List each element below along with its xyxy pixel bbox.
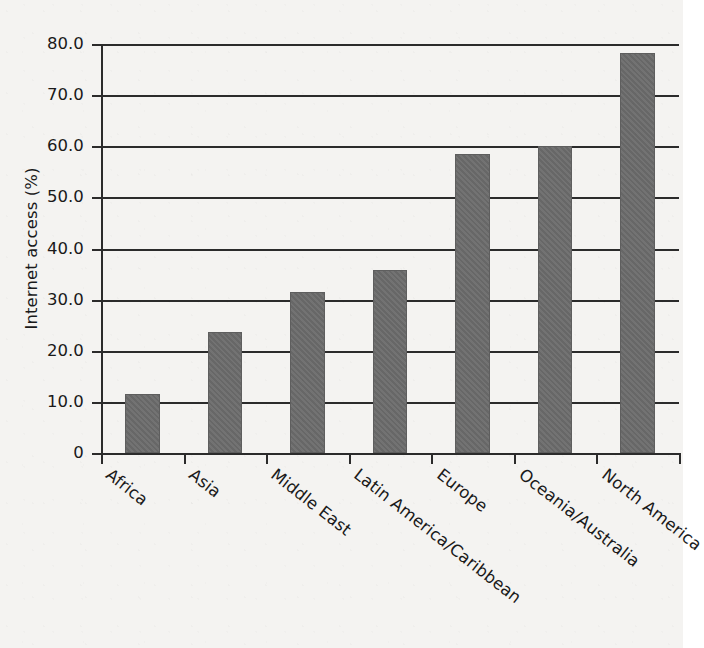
x-axis-label: Africa <box>103 465 152 509</box>
x-axis-label: Latin America/Caribbean <box>350 465 525 607</box>
y-tick-mark <box>92 44 101 46</box>
y-tick-mark <box>92 453 101 455</box>
x-tick-mark <box>514 453 516 464</box>
y-tick-mark <box>92 197 101 199</box>
x-tick-mark <box>266 453 268 464</box>
x-axis-labels: AfricaAsiaMiddle EastLatin America/Carib… <box>101 465 679 635</box>
x-axis-label: Europe <box>433 465 491 516</box>
y-tick-mark <box>92 402 101 404</box>
x-tick-mark <box>431 453 433 464</box>
bar <box>538 146 573 453</box>
y-tick-label: 80.0 <box>47 34 84 53</box>
bar <box>373 270 408 453</box>
y-tick-mark <box>92 351 101 353</box>
bar <box>125 394 160 453</box>
gridline <box>101 44 679 46</box>
gridline <box>101 453 679 455</box>
gridline <box>101 146 679 148</box>
x-axis-label: Middle East <box>268 465 356 539</box>
y-tick-mark <box>92 146 101 148</box>
y-tick-label: 50.0 <box>47 187 84 206</box>
plot-area: 010.020.030.040.050.060.070.080.0 <box>101 44 679 453</box>
y-tick-label: 0 <box>73 443 84 462</box>
x-tick-mark <box>184 453 186 464</box>
bar <box>290 292 325 453</box>
gridline <box>101 197 679 199</box>
x-axis-label: Asia <box>185 465 224 502</box>
y-tick-label: 60.0 <box>47 136 84 155</box>
y-tick-mark <box>92 95 101 97</box>
x-tick-mark <box>101 453 103 464</box>
bar <box>455 154 490 453</box>
gridline <box>101 95 679 97</box>
y-tick-label: 10.0 <box>47 392 84 411</box>
y-tick-mark <box>92 300 101 302</box>
y-axis-title: Internet access (%) <box>14 44 48 453</box>
y-tick-mark <box>92 249 101 251</box>
x-tick-mark <box>349 453 351 464</box>
y-tick-label: 70.0 <box>47 85 84 104</box>
y-tick-label: 20.0 <box>47 341 84 360</box>
bar <box>208 332 243 453</box>
y-tick-label: 40.0 <box>47 239 84 258</box>
gridline <box>101 249 679 251</box>
x-tick-mark <box>596 453 598 464</box>
bar <box>620 53 655 453</box>
x-tick-mark <box>679 453 681 464</box>
y-tick-label: 30.0 <box>47 290 84 309</box>
